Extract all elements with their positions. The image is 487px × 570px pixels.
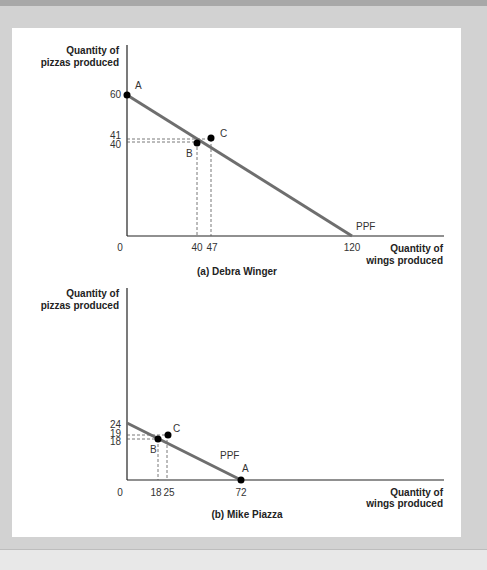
x-tick-120: 120 <box>344 242 361 253</box>
point-c <box>208 135 215 142</box>
y-axis-label-line1: Quantity of <box>66 45 119 56</box>
x-axis-label-line2: wings produced <box>365 498 443 509</box>
y-axis-label-line2: pizzas produced <box>41 57 119 68</box>
y-axis-label-line2: pizzas produced <box>41 300 119 311</box>
ppf-line <box>127 95 352 236</box>
chart-mike-piazza: Quantity of pizzas produced B C A PPF 24… <box>41 288 444 520</box>
x-tick-47: 47 <box>206 242 218 253</box>
x-tick-25: 25 <box>163 487 175 498</box>
point-b <box>194 140 201 147</box>
x-tick-18: 18 <box>150 487 162 498</box>
point-c-label: C <box>220 128 227 139</box>
chart-caption: (a) Debra Winger <box>197 266 277 277</box>
x-tick-72: 72 <box>235 487 247 498</box>
chart-caption: (b) Mike Piazza <box>211 509 283 520</box>
ppf-label: PPF <box>356 221 375 232</box>
x-tick-40: 40 <box>191 242 203 253</box>
x-tick-0: 0 <box>117 487 123 498</box>
point-c-label: C <box>173 423 180 434</box>
x-axis-label-line1: Quantity of <box>390 487 443 498</box>
x-axis-label-line1: Quantity of <box>390 243 443 254</box>
point-b <box>155 436 162 443</box>
point-b-label: B <box>150 444 157 455</box>
x-axis-label-line2: wings produced <box>365 255 443 266</box>
x-tick-0: 0 <box>117 242 123 253</box>
y-tick-60: 60 <box>110 89 122 100</box>
point-a-label: A <box>242 463 249 474</box>
point-a-label: A <box>135 80 142 91</box>
y-tick-40: 40 <box>110 139 122 150</box>
chart-debra-winger: Quantity of pizzas produced A B C PPF 60… <box>41 45 444 277</box>
point-b-label: B <box>186 148 193 159</box>
y-tick-18: 18 <box>110 436 122 447</box>
point-a <box>238 477 245 484</box>
point-c <box>165 432 172 439</box>
point-a <box>124 92 131 99</box>
y-axis-label-line1: Quantity of <box>66 288 119 299</box>
ppf-label: PPF <box>220 450 239 461</box>
